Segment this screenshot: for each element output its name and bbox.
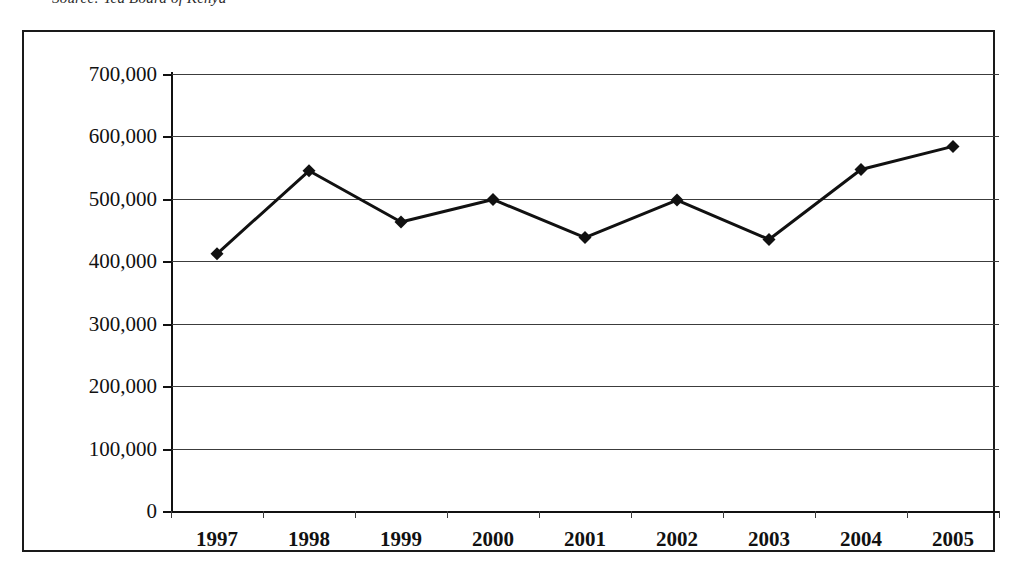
source-caption: Source: Tea Board of Kenya [52,0,226,10]
x-axis-label: 1998 [288,527,330,552]
data-point-marker [395,215,408,228]
x-axis-tick [723,511,724,518]
x-axis-label: 2004 [840,527,882,552]
x-axis-tick [539,511,540,518]
x-axis-label: 1999 [380,527,422,552]
y-axis-label: 100,000 [89,436,157,461]
y-axis-label: 400,000 [89,249,157,274]
chart-figure-box: 700,000600,000500,000400,000300,000200,0… [22,30,995,552]
data-point-marker [579,231,592,244]
data-point-marker [487,193,500,206]
x-axis-tick [447,511,448,518]
chart-plot-area: 700,000600,000500,000400,000300,000200,0… [171,74,999,511]
y-axis-label: 600,000 [89,124,157,149]
y-axis-label: 0 [147,499,158,524]
x-axis-label: 2002 [656,527,698,552]
x-axis-tick [355,511,356,518]
x-axis-label: 2000 [472,527,514,552]
x-axis-label: 2003 [748,527,790,552]
x-axis-tick [631,511,632,518]
data-series-line [171,74,999,511]
x-axis-label: 2005 [932,527,974,552]
x-axis-tick [171,511,172,518]
x-axis-label: 1997 [196,527,238,552]
data-point-marker [671,194,684,207]
x-axis-label: 2001 [564,527,606,552]
x-axis-tick [907,511,908,518]
gridline [171,511,999,513]
data-point-marker [947,140,960,153]
x-axis-tick [263,511,264,518]
y-axis-label: 500,000 [89,186,157,211]
x-axis-tick [815,511,816,518]
y-axis-label: 700,000 [89,62,157,87]
y-axis-label: 200,000 [89,374,157,399]
y-axis-label: 300,000 [89,311,157,336]
x-axis-tick [999,511,1000,518]
